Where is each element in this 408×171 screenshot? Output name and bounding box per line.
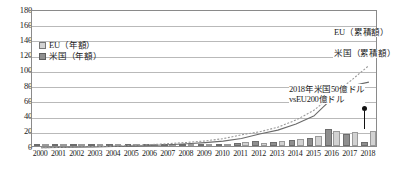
bar-us-2009 [198, 144, 205, 146]
series-label-us-cumulative: 米国（累積額） [333, 49, 397, 58]
bar-eu-2004 [115, 144, 122, 146]
bar-eu-2015 [315, 136, 322, 146]
x-tick-label: 2002 [69, 150, 84, 158]
annotation-line-1: 2018年米国50億ドル [289, 84, 365, 94]
legend-item-eu-annual: EU（年額） [39, 40, 102, 51]
bar-us-2011 [234, 143, 241, 146]
bar-eu-2009 [206, 144, 213, 146]
bar-us-2014 [289, 140, 296, 146]
annotation-line-2: vsEU200億ドル [289, 94, 365, 104]
gridline [32, 26, 376, 27]
x-tick-label: 2010 [215, 150, 230, 158]
x-tick-label: 2012 [251, 150, 266, 158]
bar-us-2017 [343, 134, 350, 146]
bar-eu-2012 [261, 143, 268, 146]
bar-eu-2017 [352, 132, 359, 146]
bar-us-2012 [252, 141, 259, 146]
chart-container: 020406080100120140160180 200020012002200… [0, 0, 408, 171]
legend-swatch-us-icon [39, 53, 46, 60]
bar-us-2003 [88, 144, 95, 146]
bar-us-2015 [307, 138, 314, 146]
bar-us-2006 [143, 144, 150, 146]
x-tick-label: 2015 [306, 150, 321, 158]
y-tick-mark [28, 147, 31, 148]
x-tick-label: 2004 [106, 150, 121, 158]
bar-eu-2014 [297, 139, 304, 146]
bar-us-2001 [52, 144, 59, 146]
bar-eu-2007 [169, 144, 176, 146]
bar-eu-2008 [188, 144, 195, 146]
x-tick-label: 2017 [342, 150, 357, 158]
x-tick-label: 2005 [124, 150, 139, 158]
x-tick-label: 2006 [142, 150, 157, 158]
x-tick-label: 2003 [87, 150, 102, 158]
bar-eu-2013 [279, 141, 286, 146]
x-tick-label: 2009 [197, 150, 212, 158]
annotation-leader-line [364, 111, 365, 129]
legend-item-us-annual: 米国（年額） [39, 51, 102, 62]
bar-eu-2016 [333, 131, 340, 146]
x-tick-label: 2011 [233, 150, 247, 158]
bar-eu-2005 [133, 144, 140, 146]
legend-label-us-annual: 米国（年額） [49, 51, 102, 62]
x-tick-label: 2018 [361, 150, 376, 158]
series-label-eu-cumulative: EU（累積額） [333, 28, 390, 37]
bar-eu-2000 [42, 144, 49, 146]
bar-us-2016 [325, 129, 332, 147]
legend-label-eu-annual: EU（年額） [49, 40, 95, 51]
bar-us-2010 [216, 144, 223, 146]
x-tick-label: 2001 [51, 150, 66, 158]
x-tick-label: 2008 [178, 150, 193, 158]
bar-us-2013 [270, 142, 277, 146]
x-tick-label: 2000 [33, 150, 48, 158]
bar-us-2000 [34, 144, 41, 146]
bar-eu-2006 [151, 144, 158, 146]
gridline [32, 72, 376, 73]
bar-us-2007 [161, 144, 168, 146]
gridline [32, 118, 376, 119]
legend: EU（年額） 米国（年額） [39, 40, 102, 62]
bar-us-2002 [70, 144, 77, 146]
bar-eu-2003 [97, 144, 104, 146]
bar-us-2004 [106, 144, 113, 146]
bar-eu-2002 [78, 144, 85, 146]
bar-us-2005 [125, 144, 132, 146]
x-tick-label: 2014 [288, 150, 303, 158]
bar-us-2008 [179, 144, 186, 146]
annotation-2018: 2018年米国50億ドル vsEU200億ドル [289, 84, 365, 104]
legend-swatch-eu-icon [39, 42, 46, 49]
bar-eu-2018 [370, 131, 377, 146]
x-tick-label: 2013 [270, 150, 285, 158]
x-tick-label: 2016 [324, 150, 339, 158]
plot-area [31, 10, 377, 147]
bar-eu-2010 [224, 144, 231, 146]
bar-us-2018 [361, 142, 368, 146]
cumulative-curves [32, 11, 378, 148]
bar-eu-2011 [242, 142, 249, 146]
x-tick-label: 2007 [160, 150, 175, 158]
bar-eu-2001 [60, 144, 67, 146]
